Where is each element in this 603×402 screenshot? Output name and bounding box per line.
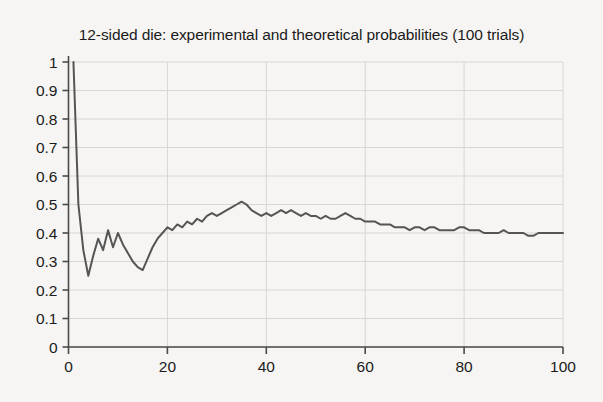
x-axis-tick-label: 100 [550,358,576,375]
y-axis-tick-label: 0.5 [36,196,58,213]
y-axis-tick-label: 0.2 [36,282,58,299]
x-axis-tick-label: 0 [64,358,73,375]
x-axis-tick-label: 20 [159,358,177,375]
x-axis-tick-label: 60 [357,358,375,375]
x-axis-tick-label: 80 [455,358,473,375]
series-line [73,62,563,276]
chart-figure: 12-sided die: experimental and theoretic… [0,0,603,402]
y-axis-tick-label: 0.4 [36,225,58,242]
grid-lines [69,62,564,347]
axis-ticks [63,62,564,354]
axis-lines [69,56,564,347]
data-series [73,62,563,276]
y-axis-tick-label: 0.1 [36,310,58,327]
chart-plot: 00.10.20.30.40.50.60.70.80.9102040608010… [0,0,603,402]
y-axis-tick-label: 0.8 [36,111,58,128]
y-axis-tick-label: 0.6 [36,168,58,185]
y-axis-tick-label: 0.9 [36,82,58,99]
y-axis-tick-label: 0.3 [36,253,58,270]
x-axis-tick-label: 40 [258,358,276,375]
y-axis-tick-label: 0.7 [36,139,58,156]
y-axis-tick-label: 0 [49,339,58,356]
y-axis-tick-label: 1 [49,54,58,71]
